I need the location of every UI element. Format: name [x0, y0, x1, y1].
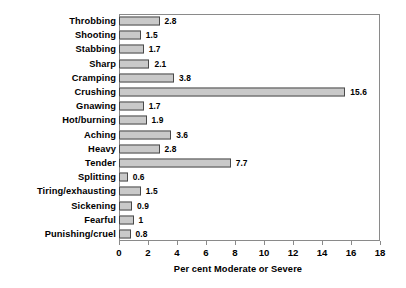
bar-row: Throbbing2.8: [0, 14, 406, 28]
bar-value-label: 3.6: [176, 130, 188, 140]
x-axis-tick: [148, 241, 149, 245]
bar-value-label: 1.7: [149, 101, 161, 111]
x-axis: Per cent Moderate or Severe 024681012141…: [0, 241, 406, 288]
x-axis-tick-label: 2: [145, 247, 150, 258]
bar-value-label: 0.8: [136, 229, 148, 239]
category-label: Cramping: [72, 73, 116, 83]
bar: [119, 130, 171, 139]
x-axis-title: Per cent Moderate or Severe: [0, 264, 406, 274]
x-axis-tick: [235, 241, 236, 245]
category-label: Shooting: [75, 30, 116, 40]
bar-value-label: 1.9: [152, 115, 164, 125]
bar-row: Fearful1: [0, 213, 406, 227]
bar-value-label: 2.8: [165, 144, 177, 154]
category-label: Punishing/cruel: [45, 229, 116, 239]
x-axis-tick: [380, 241, 381, 245]
x-axis-tick-label: 10: [259, 247, 270, 258]
category-label: Aching: [84, 130, 116, 140]
category-label: Splitting: [78, 172, 116, 182]
x-axis-tick-label: 18: [375, 247, 386, 258]
bar-row: Gnawing1.7: [0, 99, 406, 113]
bar-value-label: 15.6: [350, 87, 367, 97]
bar-row: Sharp2.1: [0, 57, 406, 71]
bar-row: Hot/burning1.9: [0, 113, 406, 127]
bar-row: Heavy2.8: [0, 142, 406, 156]
bar: [119, 144, 160, 153]
bar-value-label: 1.5: [146, 30, 158, 40]
bar-value-label: 1.5: [146, 186, 158, 196]
bar-row: Tiring/exhausting1.5: [0, 184, 406, 198]
x-axis-tick: [119, 241, 120, 245]
x-axis-tick: [264, 241, 265, 245]
x-axis-tick: [206, 241, 207, 245]
bar: [119, 116, 147, 125]
category-label: Fearful: [84, 215, 116, 225]
x-axis-tick-label: 12: [288, 247, 299, 258]
category-label: Throbbing: [69, 16, 116, 26]
bar-row: Cramping3.8: [0, 71, 406, 85]
bar-row: Punishing/cruel0.8: [0, 227, 406, 241]
bar-value-label: 0.6: [133, 172, 145, 182]
bar-rows-container: Throbbing2.8Shooting1.5Stabbing1.7Sharp2…: [0, 14, 406, 241]
x-axis-tick-label: 4: [174, 247, 179, 258]
bar-row: Crushing15.6: [0, 85, 406, 99]
bar: [119, 88, 345, 97]
x-axis-tick-label: 16: [346, 247, 357, 258]
bar-value-label: 2.8: [165, 16, 177, 26]
x-axis-tick-label: 0: [116, 247, 121, 258]
category-label: Tender: [85, 158, 116, 168]
bar-chart: Throbbing2.8Shooting1.5Stabbing1.7Sharp2…: [0, 0, 406, 288]
category-label: Tiring/exhausting: [37, 186, 116, 196]
x-axis-tick-label: 6: [203, 247, 208, 258]
x-axis-tick: [322, 241, 323, 245]
bar-row: Tender7.7: [0, 156, 406, 170]
category-label: Heavy: [88, 144, 116, 154]
bar: [119, 102, 144, 111]
bar: [119, 59, 149, 68]
category-label: Stabbing: [75, 44, 116, 54]
bar-row: Shooting1.5: [0, 28, 406, 42]
bar: [119, 173, 128, 182]
category-label: Crushing: [74, 87, 116, 97]
x-axis-title-text: Per cent Moderate or Severe: [174, 264, 302, 274]
category-label: Sickening: [71, 201, 116, 211]
bar-row: Aching3.6: [0, 128, 406, 142]
bar-value-label: 7.7: [236, 158, 248, 168]
bar-value-label: 0.9: [137, 201, 149, 211]
x-axis-tick: [177, 241, 178, 245]
category-label: Sharp: [89, 59, 116, 69]
x-axis-tick: [293, 241, 294, 245]
bar: [119, 73, 174, 82]
bar-row: Sickening0.9: [0, 198, 406, 212]
category-label: Gnawing: [76, 101, 116, 111]
x-axis-tick-label: 8: [232, 247, 237, 258]
bar-row: Splitting0.6: [0, 170, 406, 184]
bar-row: Stabbing1.7: [0, 42, 406, 56]
bar-value-label: 1.7: [149, 44, 161, 54]
bar: [119, 187, 141, 196]
bar: [119, 201, 132, 210]
bar: [119, 158, 231, 167]
bar: [119, 215, 134, 224]
bar: [119, 229, 131, 238]
category-label: Hot/burning: [62, 115, 116, 125]
x-axis-tick: [351, 241, 352, 245]
bar-value-label: 1: [139, 215, 144, 225]
bar: [119, 31, 141, 40]
bar-value-label: 2.1: [154, 59, 166, 69]
x-axis-tick-label: 14: [317, 247, 328, 258]
bar-value-label: 3.8: [179, 73, 191, 83]
bar: [119, 45, 144, 54]
bar: [119, 17, 160, 26]
